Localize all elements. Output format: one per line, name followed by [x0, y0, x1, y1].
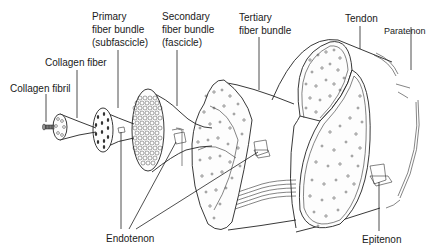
- label-tendon: Tendon: [345, 13, 378, 24]
- label-tertiary-line1: Tertiary: [239, 12, 272, 23]
- tendon: [272, 40, 419, 233]
- label-collagen-fiber: Collagen fiber: [45, 57, 107, 68]
- primary-fiber-bundle: [93, 108, 134, 152]
- label-endotenon: Endotenon: [106, 233, 154, 244]
- label-primary-line1: Primary: [92, 11, 126, 22]
- label-secondary-line2: fiber bundle: [162, 24, 215, 35]
- label-primary-line2: fiber bundle: [92, 24, 145, 35]
- collagen-fibril: [43, 124, 55, 130]
- label-tertiary-line2: fiber bundle: [239, 25, 292, 36]
- label-paratenon: Paratenon: [384, 26, 426, 36]
- label-epitenon: Epitenon: [362, 234, 401, 245]
- label-primary-line3: (subfascicle): [92, 37, 148, 48]
- label-secondary-line3: (fascicle): [162, 37, 202, 48]
- collagen-fiber: [53, 114, 96, 140]
- tertiary-fiber-bundle: [192, 80, 296, 230]
- label-collagen-fibril: Collagen fibril: [10, 83, 71, 94]
- tendon-structure-diagram: Collagen fibril Collagen fiber Primary f…: [0, 0, 434, 249]
- label-secondary-line1: Secondary: [162, 11, 210, 22]
